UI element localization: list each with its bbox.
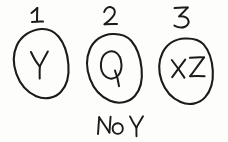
group-2-oval[interactable] [87,34,142,103]
group-2-caption [98,116,143,136]
group-3[interactable] [159,7,213,104]
group-2[interactable] [87,7,143,136]
group-2-content-glyph [101,51,121,86]
group-2-number-label [104,7,117,24]
group-1-number-label [32,8,44,22]
group-1-content-glyph [31,52,48,79]
sketch-canvas: 1 Y 2 Q No Y 3 XZ [0,0,228,142]
group-3-content-glyph [172,57,205,77]
group-3-oval[interactable] [159,38,213,104]
group-3-number-label [174,7,188,27]
group-1[interactable] [14,8,69,98]
handwritten-diagram [0,0,228,142]
